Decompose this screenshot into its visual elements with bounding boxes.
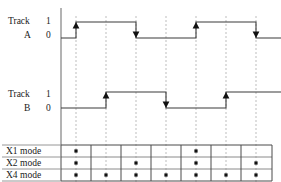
mode-dot-r3-c1 (74, 173, 77, 176)
track-a-rising-arrow-3 (193, 22, 200, 29)
track-a-name-line2: A (24, 31, 31, 41)
track-b-name-line2: B (24, 104, 30, 114)
track-a-name-line1: Track (8, 17, 30, 27)
mode-dot-r3-c5 (194, 173, 197, 176)
track-b-name-line1: Track (8, 90, 30, 100)
track-b-rising-arrow-3 (223, 92, 230, 99)
track-a-falling-arrow-4 (253, 32, 260, 39)
mode-row-label-x2: X2 mode (6, 159, 41, 169)
mode-dot-r2-c7 (254, 161, 257, 164)
track-b-waveform (61, 92, 281, 108)
track-a-line (61, 22, 281, 38)
mode-dot-r3-c4 (164, 173, 167, 176)
track-b-line (61, 92, 281, 108)
diagram-canvas (0, 0, 281, 182)
track-b-rising-arrow-1 (103, 92, 110, 99)
mode-dot-r3-c6 (224, 173, 227, 176)
mode-dot-r1-c1 (74, 149, 77, 152)
track-a-level-low-label: 0 (46, 31, 51, 41)
mode-dot-r2-c3 (134, 161, 137, 164)
track-b-falling-arrow-2 (163, 102, 170, 109)
track-a-waveform (61, 22, 281, 38)
track-b-level-low-label: 0 (46, 104, 51, 114)
mode-dot-r3-c2 (104, 173, 107, 176)
mode-dot-r2-c1 (74, 161, 77, 164)
mode-row-label-x1: X1 mode (6, 147, 41, 157)
quadrature-timing-diagram: Track A 1 0 Track B 1 0 X1 mode X2 mode … (0, 0, 281, 182)
mode-dot-r3-c7 (254, 173, 257, 176)
mode-dot-r1-c5 (194, 149, 197, 152)
track-a-falling-arrow-2 (133, 32, 140, 39)
mode-row-label-x4: X4 mode (6, 171, 41, 181)
mode-dot-r3-c3 (134, 173, 137, 176)
track-a-rising-arrow-1 (73, 22, 80, 29)
track-a-level-high-label: 1 (46, 17, 51, 27)
mode-dot-r2-c5 (194, 161, 197, 164)
track-b-level-high-label: 1 (46, 90, 51, 100)
